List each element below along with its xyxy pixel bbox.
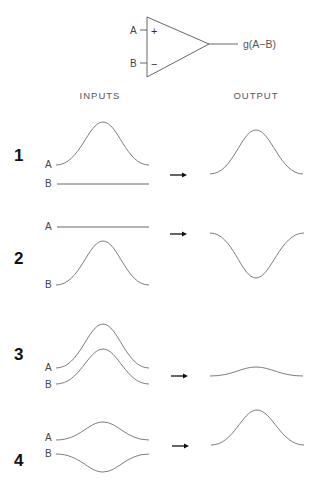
input-b-waveform [56,241,149,285]
minus-sign: − [151,58,157,70]
input-b-label: B [45,379,52,390]
input-a-label: A [45,362,52,373]
amp-input-a-label: A [130,25,137,36]
output-waveform [210,233,304,278]
row-number: 1 [14,146,23,165]
output-waveform [210,130,303,174]
input-a-label: A [45,221,52,232]
input-a-label: A [45,432,52,443]
output-formula: g(A−B) [243,38,276,50]
plus-sign: + [151,25,157,37]
input-b-waveform [56,349,149,384]
input-a-waveform [56,324,149,368]
input-b-label: B [45,448,52,459]
input-b-waveform [56,454,149,472]
amplifier: A B + − g(A−B) [130,17,276,77]
arrow-icon [171,374,188,379]
input-b-label: B [45,178,52,189]
amp-input-b-label: B [130,58,137,69]
row-number: 3 [14,345,23,364]
row-3: 3 A B [14,324,303,390]
input-a-waveform [56,422,149,440]
row-number: 4 [14,451,24,470]
output-header: OUTPUT [233,90,278,101]
inputs-header: INPUTS [80,90,121,101]
input-a-waveform [56,122,149,165]
output-waveform [211,410,304,445]
output-waveform [210,367,303,376]
row-number: 2 [14,249,23,268]
arrow-icon [172,444,189,449]
input-a-label: A [45,159,52,170]
differential-amplifier-diagram: A B + − g(A−B) INPUTS OUTPUT 1 A B 2 A B [0,0,325,484]
input-b-label: B [45,279,52,290]
row-4: 4 A B [14,410,304,472]
row-2: 2 A B [14,221,304,290]
row-1: 1 A B [14,122,303,189]
arrow-icon [170,173,187,178]
arrow-icon [170,232,187,237]
